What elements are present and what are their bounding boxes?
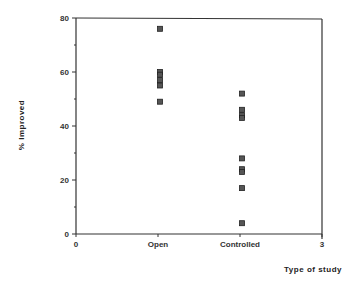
- top-border: [76, 18, 322, 19]
- data-point-marker: [158, 26, 163, 31]
- data-point-marker: [240, 91, 245, 96]
- data-point-marker: [240, 221, 245, 226]
- data-point-marker: [240, 115, 245, 120]
- x-axis: 0OpenControlled3: [74, 234, 325, 249]
- x-tick-label: Controlled: [220, 240, 260, 249]
- data-point-marker: [240, 156, 245, 161]
- y-axis: 020406080: [60, 14, 76, 239]
- y-tick-label: 0: [65, 230, 70, 239]
- data-point-marker: [240, 186, 245, 191]
- x-tick-label: 0: [74, 240, 79, 249]
- y-tick-label: 20: [60, 176, 69, 185]
- plot-frame: [76, 18, 322, 239]
- data-point-marker: [158, 78, 163, 83]
- y-tick-label: 80: [60, 14, 69, 23]
- x-axis-title: Type of study: [284, 265, 342, 274]
- data-points: [158, 26, 245, 225]
- x-tick-label: Open: [148, 240, 169, 249]
- y-tick-label: 60: [60, 68, 69, 77]
- y-tick-label: 40: [60, 122, 69, 131]
- data-point-marker: [158, 83, 163, 88]
- data-point-marker: [240, 169, 245, 174]
- x-tick-label: 3: [320, 240, 325, 249]
- data-point-marker: [240, 107, 245, 112]
- data-point-marker: [158, 72, 163, 77]
- data-point-marker: [158, 99, 163, 104]
- y-axis-title: % Improved: [17, 100, 26, 150]
- scatter-chart: 020406080 0OpenControlled3 % Improved Ty…: [0, 0, 349, 282]
